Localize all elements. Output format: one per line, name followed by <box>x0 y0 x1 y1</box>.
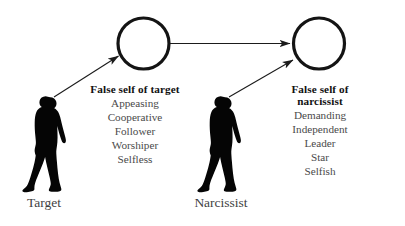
trait-target-4: Worshiper <box>90 139 179 151</box>
trait-target-5: Selfless <box>90 153 179 165</box>
trait-target-3: Follower <box>90 125 179 137</box>
narcissism-relationship-diagram: False self of target Appeasing Cooperati… <box>0 0 405 226</box>
trait-target-2: Cooperative <box>90 111 179 123</box>
false-self-of-narcissist-block: False self of narcissist Demanding Indep… <box>278 83 363 177</box>
target-person-silhouette <box>22 96 66 192</box>
trait-narcissist-3: Leader <box>278 137 363 149</box>
trait-narcissist-5: Selfish <box>278 165 363 177</box>
trait-narcissist-4: Star <box>278 151 363 163</box>
false-self-of-target-heading: False self of target <box>90 83 179 95</box>
actor-label-target: Target <box>27 196 61 210</box>
false-self-of-narcissist-heading: False self of narcissist <box>278 83 363 107</box>
narcissist-false-self-circle <box>294 18 345 69</box>
trait-narcissist-1: Demanding <box>278 109 363 121</box>
trait-target-1: Appeasing <box>90 97 179 109</box>
narcissist-person-silhouette <box>197 96 241 192</box>
trait-narcissist-2: Independent <box>278 123 363 135</box>
false-self-of-target-block: False self of target Appeasing Cooperati… <box>90 83 179 165</box>
actor-label-narcissist: Narcissist <box>194 196 247 210</box>
target-false-self-circle <box>118 18 169 69</box>
